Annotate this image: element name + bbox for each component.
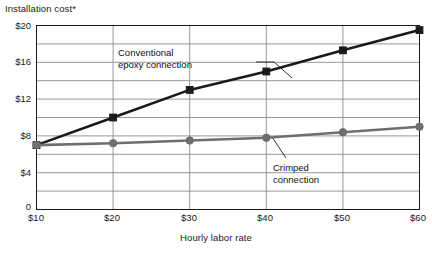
x-axis-tick-label: $20 (92, 212, 132, 223)
x-axis-tick-label: $40 (245, 212, 285, 223)
y-axis-title: Installation cost* (5, 3, 76, 14)
x-axis-tick-label: $10 (16, 212, 56, 223)
annotation-line-1: Conventional (118, 47, 192, 59)
y-axis-tick-label: $8 (1, 130, 31, 141)
data-point-marker (186, 87, 193, 94)
data-point-marker (263, 134, 270, 141)
data-point-marker (416, 123, 423, 130)
x-axis-tick-label: $30 (169, 212, 209, 223)
annotation-line-1: Crimped (273, 162, 319, 174)
annotation-line-2: connection (273, 174, 319, 186)
data-point-marker (339, 129, 346, 136)
annotation-conventional-epoxy: Conventional epoxy connection (118, 47, 192, 71)
y-axis-tick-label: $16 (1, 56, 31, 67)
data-series-layer (33, 27, 423, 149)
data-point-marker (186, 137, 193, 144)
chart-container: Installation cost* $20 $16 $12 $8 $4 0 $… (0, 0, 432, 254)
data-point-marker (263, 68, 270, 75)
data-point-marker (33, 141, 40, 148)
y-axis-tick-label: $20 (1, 20, 31, 31)
annotation-line-2: epoxy connection (118, 59, 192, 71)
x-axis-tick-label: $60 (398, 212, 432, 223)
plot-area (0, 0, 432, 254)
annotation-leader-lines (256, 62, 292, 158)
x-axis-tick-label: $50 (322, 212, 362, 223)
horizontal-gridlines (37, 44, 420, 191)
data-point-marker (110, 114, 117, 121)
data-point-marker (109, 140, 116, 147)
y-axis-tick-label: $4 (1, 167, 31, 178)
annotation-crimped-connection: Crimped connection (273, 162, 319, 186)
data-point-marker (416, 27, 423, 34)
x-axis-title: Hourly labor rate (0, 232, 432, 243)
y-axis-tick-label: $12 (1, 93, 31, 104)
data-point-marker (340, 47, 347, 54)
y-axis-tick-label: 0 (1, 201, 31, 212)
